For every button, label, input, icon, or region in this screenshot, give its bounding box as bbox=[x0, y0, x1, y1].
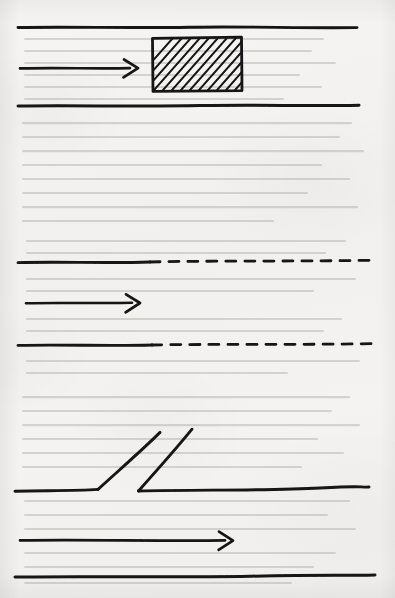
panel-middle-lower-wall-dashed bbox=[152, 344, 372, 345]
panel-top-upper-wall bbox=[18, 27, 357, 28]
panel-middle-upper-wall-dashed bbox=[150, 260, 375, 262]
panel-bottom bbox=[15, 429, 375, 577]
panel-top bbox=[18, 27, 359, 106]
panel-middle-upper-wall-solid bbox=[18, 262, 150, 263]
panel-bottom-slot-flange-left bbox=[98, 432, 160, 489]
panel-top-flow-arrow bbox=[20, 60, 138, 78]
panel-top-lower-wall bbox=[18, 105, 359, 106]
panel-middle bbox=[18, 260, 375, 345]
figure-drawing bbox=[0, 0, 395, 598]
panel-bottom-upper-wall-left bbox=[15, 489, 98, 491]
panel-middle-flow-arrow bbox=[26, 294, 140, 312]
panel-top-hatched-block bbox=[120, 30, 297, 98]
panel-bottom-lower-wall bbox=[15, 575, 375, 577]
panel-bottom-flow-arrow bbox=[20, 532, 233, 550]
paper-sheet bbox=[0, 0, 395, 598]
panel-bottom-slot-flange-right bbox=[139, 429, 193, 491]
panel-bottom-upper-wall-right bbox=[139, 487, 370, 491]
